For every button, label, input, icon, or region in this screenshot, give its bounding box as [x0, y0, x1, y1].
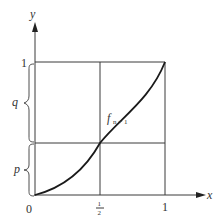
x-axis-arrow-icon [196, 192, 206, 198]
function-diagram: y x 0 1 1 1 2 q p f n + 1 [0, 0, 219, 222]
y-axis-arrow-icon [32, 22, 38, 32]
svg-text:f: f [107, 111, 112, 125]
curve-label: f n + 1 [107, 111, 128, 126]
brace-q [24, 64, 34, 142]
y-axis-label: y [29, 7, 36, 21]
origin-label: 0 [26, 202, 32, 216]
brace-p [24, 144, 34, 196]
brace-p-label: p [13, 162, 20, 176]
x-tick-1-label: 1 [162, 200, 168, 214]
svg-text:2: 2 [98, 209, 102, 217]
brace-q-label: q [12, 95, 18, 109]
x-tick-half-label: 1 2 [96, 200, 104, 217]
x-axis-label: x [206, 188, 213, 202]
svg-text:n + 1: n + 1 [113, 118, 128, 126]
y-tick-1-label: 1 [21, 56, 27, 70]
svg-text:1: 1 [98, 200, 102, 208]
